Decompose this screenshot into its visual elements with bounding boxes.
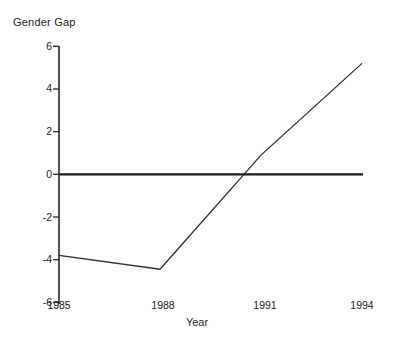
x-tick-label-1994: 1994 — [332, 300, 392, 311]
y-tick-label-neg4: -4 — [24, 254, 52, 265]
x-tick-label-1991: 1991 — [235, 300, 295, 311]
y-tick-label-6: 6 — [24, 41, 52, 52]
chart-container: Gender Gap 6 4 2 0 -2 -4 -6 1985 1988 19… — [0, 0, 394, 344]
y-tick-marks — [53, 46, 59, 302]
y-tick-label-4: 4 — [24, 83, 52, 94]
plot-area — [0, 0, 394, 344]
y-tick-label-2: 2 — [24, 126, 52, 137]
y-tick-label-0: 0 — [24, 169, 52, 180]
x-tick-label-1988: 1988 — [133, 300, 193, 311]
x-axis-title: Year — [0, 316, 394, 329]
series-line-gender-gap — [59, 63, 362, 269]
y-tick-label-neg2: -2 — [24, 212, 52, 223]
x-tick-label-1985: 1985 — [29, 300, 89, 311]
